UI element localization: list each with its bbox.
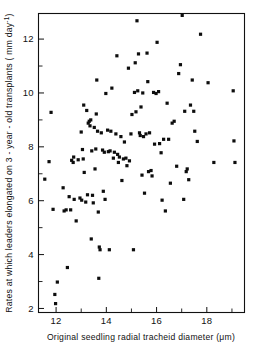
data-point (124, 157, 127, 160)
data-point (93, 126, 96, 129)
scatter-data-markers (43, 14, 236, 305)
data-point (133, 91, 136, 94)
y-axis-label-tail: ) (4, 13, 14, 16)
data-point (157, 90, 160, 93)
data-point (150, 174, 153, 177)
data-point (161, 199, 164, 202)
x-axis-tick-labels: 12141618 (50, 315, 212, 326)
data-point (108, 248, 111, 251)
data-point (135, 19, 138, 22)
data-point (186, 167, 189, 170)
data-point (83, 171, 86, 174)
data-point (82, 157, 85, 160)
x-tick-label: 14 (101, 315, 112, 326)
x-axis-label: Original seedling radial tracheid diamet… (47, 332, 235, 342)
y-tick-label: 2 (28, 303, 34, 314)
data-point (80, 199, 83, 202)
data-point (144, 132, 147, 135)
data-point (164, 209, 167, 212)
x-tick-label: 18 (201, 315, 212, 326)
data-point (112, 157, 115, 160)
data-point (169, 182, 172, 185)
data-point (69, 208, 72, 211)
data-point (175, 165, 178, 168)
data-point (53, 293, 56, 296)
data-point (134, 110, 137, 113)
data-point (162, 138, 165, 141)
data-point (233, 161, 236, 164)
data-point (148, 131, 151, 134)
data-point (153, 143, 156, 146)
data-point (183, 110, 186, 113)
data-point (141, 91, 144, 94)
data-point (139, 105, 142, 108)
data-point (47, 160, 50, 163)
data-point (155, 41, 158, 44)
data-point (232, 89, 235, 92)
y-tick-label: 12 (23, 33, 34, 44)
y-tick-label: 8 (28, 141, 34, 152)
data-point (72, 161, 75, 164)
data-point (199, 33, 202, 36)
data-point (73, 198, 76, 201)
data-point (127, 67, 130, 70)
data-point (89, 118, 92, 121)
data-point (166, 102, 169, 105)
data-point (113, 151, 116, 154)
data-point (158, 142, 161, 145)
data-point (173, 120, 176, 123)
data-point (94, 147, 97, 150)
data-point (232, 139, 235, 142)
y-tick-label: 4 (28, 249, 34, 260)
data-point (123, 140, 126, 143)
data-point (103, 198, 106, 201)
data-point (66, 266, 69, 269)
data-point (119, 135, 122, 138)
data-point (90, 237, 93, 240)
y-axis-minor-ticks (39, 66, 43, 281)
data-point (120, 179, 123, 182)
data-point (140, 174, 143, 177)
data-point (98, 248, 101, 251)
data-point (182, 198, 185, 201)
data-point (206, 81, 209, 84)
data-point (82, 103, 85, 106)
data-point (84, 200, 87, 203)
data-point (75, 219, 78, 222)
data-point (187, 178, 190, 181)
data-point (72, 155, 75, 158)
data-point (95, 112, 98, 115)
data-point (129, 132, 132, 135)
data-point (43, 178, 46, 181)
data-point (143, 192, 146, 195)
data-point (139, 134, 142, 137)
data-point (49, 111, 52, 114)
data-point (167, 138, 170, 141)
data-point (85, 109, 88, 112)
data-point (179, 63, 182, 66)
data-point (117, 161, 120, 164)
data-point (149, 169, 152, 172)
data-point (114, 132, 117, 135)
data-point (100, 131, 103, 134)
data-point (51, 208, 54, 211)
data-point (110, 87, 113, 90)
data-point (191, 78, 194, 81)
data-point (103, 151, 106, 154)
data-point (102, 190, 105, 193)
y-axis-tick-labels: 24681012 (23, 33, 34, 313)
y-tick-label: 10 (23, 87, 34, 98)
data-point (136, 89, 139, 92)
data-point (77, 158, 80, 161)
x-tick-label: 12 (50, 315, 61, 326)
data-point (86, 193, 89, 196)
data-point (90, 149, 93, 152)
data-point (54, 302, 57, 305)
data-point (106, 129, 109, 132)
data-point (109, 149, 112, 152)
data-point (130, 113, 133, 116)
data-point (115, 54, 118, 57)
data-point (192, 110, 195, 113)
data-point (80, 130, 83, 133)
data-point (177, 72, 180, 75)
